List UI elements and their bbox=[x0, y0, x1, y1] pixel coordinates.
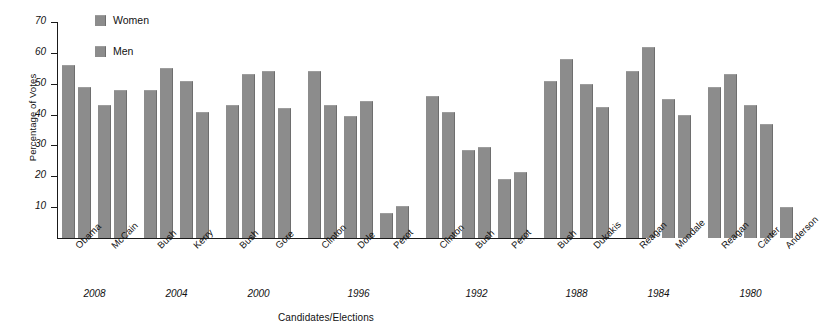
bar-women bbox=[462, 150, 475, 238]
year-label: 1996 bbox=[347, 288, 369, 299]
year-label: 2004 bbox=[165, 288, 187, 299]
y-tick-mark bbox=[51, 145, 58, 146]
year-label: 2008 bbox=[83, 288, 105, 299]
bar-men bbox=[114, 90, 127, 238]
bar-women bbox=[226, 105, 239, 238]
y-tick-label: 10 bbox=[20, 201, 46, 211]
bar-men bbox=[760, 124, 773, 238]
y-tick-label: 70 bbox=[20, 16, 46, 26]
y-tick-label: 60 bbox=[20, 47, 46, 57]
legend-item-men: Men bbox=[95, 45, 133, 57]
bar-men bbox=[160, 68, 173, 238]
bar-men bbox=[242, 74, 255, 238]
y-tick-mark bbox=[51, 53, 58, 54]
bar-women bbox=[98, 105, 111, 238]
bar-women bbox=[744, 105, 757, 238]
y-tick-mark bbox=[51, 22, 58, 23]
bar-women bbox=[308, 71, 321, 238]
bar-women bbox=[708, 87, 721, 238]
y-tick-mark bbox=[51, 115, 58, 116]
bar-women bbox=[498, 179, 511, 238]
bar-women bbox=[144, 90, 157, 238]
year-label: 2000 bbox=[247, 288, 269, 299]
bar-men bbox=[78, 87, 91, 238]
bar-women bbox=[662, 99, 675, 238]
year-label: 1992 bbox=[465, 288, 487, 299]
year-label: 1984 bbox=[647, 288, 669, 299]
y-tick-label: 40 bbox=[20, 109, 46, 119]
bar-men bbox=[596, 107, 609, 238]
x-axis-title: Candidates/Elections bbox=[0, 312, 652, 323]
bar-men bbox=[642, 47, 655, 238]
bar-men bbox=[278, 108, 291, 238]
bar-men bbox=[196, 112, 209, 239]
bar-men bbox=[478, 147, 491, 238]
bar-women bbox=[380, 213, 393, 238]
bar-women bbox=[62, 65, 75, 238]
y-tick-mark bbox=[51, 84, 58, 85]
legend-label-women: Women bbox=[113, 14, 149, 26]
bar-men bbox=[442, 112, 455, 239]
bar-men bbox=[560, 59, 573, 238]
bar-women bbox=[426, 96, 439, 238]
y-tick-mark bbox=[51, 207, 58, 208]
plot-area bbox=[58, 22, 646, 238]
y-tick-mark bbox=[51, 176, 58, 177]
bar-women bbox=[580, 84, 593, 238]
y-tick-label: 30 bbox=[20, 139, 46, 149]
bar-women bbox=[344, 116, 357, 238]
bar-women bbox=[626, 71, 639, 238]
y-tick-label: 20 bbox=[20, 170, 46, 180]
legend-swatch-men-icon bbox=[95, 46, 106, 57]
y-tick-label: 50 bbox=[20, 78, 46, 88]
legend-label-men: Men bbox=[113, 45, 133, 57]
legend-swatch-women-icon bbox=[95, 15, 106, 26]
legend-item-women: Women bbox=[95, 14, 149, 26]
bar-women bbox=[180, 81, 193, 238]
year-label: 1988 bbox=[565, 288, 587, 299]
year-label: 1980 bbox=[739, 288, 761, 299]
bar-women bbox=[262, 71, 275, 238]
bar-men bbox=[678, 115, 691, 238]
bar-women bbox=[544, 81, 557, 238]
bar-men bbox=[724, 74, 737, 238]
bar-men bbox=[360, 101, 373, 238]
bar-men bbox=[324, 105, 337, 238]
